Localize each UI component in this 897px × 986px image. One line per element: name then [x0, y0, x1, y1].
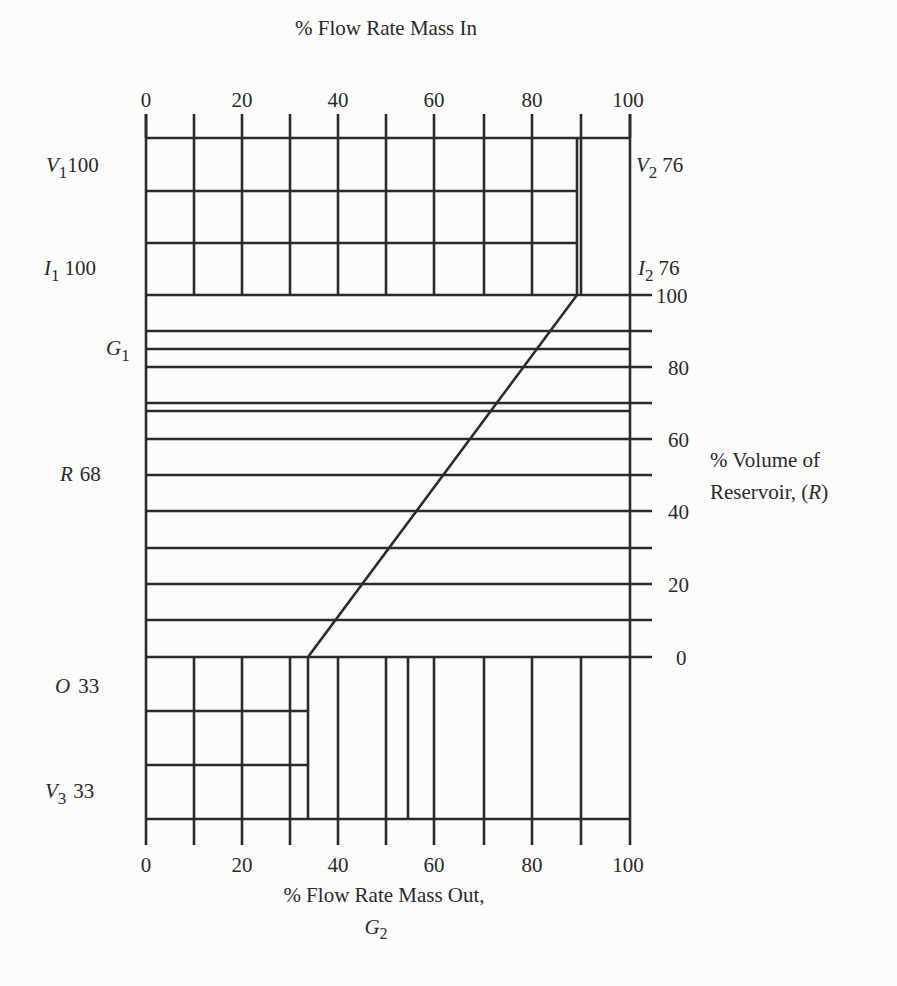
- right-axis-ticks: 100 80 60 40 20 0: [656, 284, 689, 670]
- top-tick-label: 0: [141, 88, 152, 112]
- right-axis-title-line1: % Volume of: [710, 448, 820, 472]
- reservoir-grid: [146, 295, 652, 657]
- top-tick-label: 100: [612, 88, 644, 112]
- bottom-tick-label: 100: [612, 853, 644, 877]
- bottom-tick-label: 0: [141, 853, 152, 877]
- bottom-tick-label: 20: [232, 853, 253, 877]
- output-grid: [146, 657, 630, 845]
- bottom-axis-subtitle: G2: [364, 915, 387, 942]
- right-tick-label: 80: [668, 356, 689, 380]
- label-o: O33: [55, 674, 99, 698]
- input-grid: [146, 114, 630, 295]
- left-variable-labels: V1100 I1100 G1 R68 O33 V333: [43, 153, 130, 808]
- bottom-tick-label: 80: [522, 853, 543, 877]
- label-v3: V333: [45, 779, 94, 808]
- right-tick-label: 100: [656, 284, 688, 308]
- bottom-tick-label: 40: [328, 853, 349, 877]
- top-tick-label: 20: [232, 88, 253, 112]
- label-i2: I276: [637, 256, 680, 285]
- right-axis-title-line2: Reservoir, (R): [710, 480, 828, 504]
- top-tick-label: 80: [522, 88, 543, 112]
- bottom-axis-title: % Flow Rate Mass Out,: [283, 883, 484, 907]
- bottom-axis-ticks: 0 20 40 60 80 100: [141, 853, 644, 877]
- top-tick-label: 40: [328, 88, 349, 112]
- right-axis-title: % Volume of Reservoir, (R): [710, 448, 828, 504]
- top-axis-ticks: 0 20 40 60 80 100: [141, 88, 644, 112]
- label-i1: I1100: [43, 256, 96, 285]
- right-tick-label: 20: [668, 573, 689, 597]
- label-v2: V276: [636, 153, 683, 182]
- top-axis-title: % Flow Rate Mass In: [295, 16, 477, 40]
- right-variable-labels: V276 I276: [636, 153, 683, 285]
- label-g1: G1: [106, 336, 130, 365]
- right-tick-label: 40: [668, 500, 689, 524]
- right-tick-label: 60: [668, 428, 689, 452]
- bottom-tick-label: 60: [424, 853, 445, 877]
- label-v1: V1100: [46, 153, 99, 182]
- right-tick-label: 0: [676, 646, 687, 670]
- reservoir-nomogram: % Flow Rate Mass In 0 20 40 60 80 100: [0, 0, 897, 986]
- label-r: R68: [59, 462, 101, 486]
- top-tick-label: 60: [424, 88, 445, 112]
